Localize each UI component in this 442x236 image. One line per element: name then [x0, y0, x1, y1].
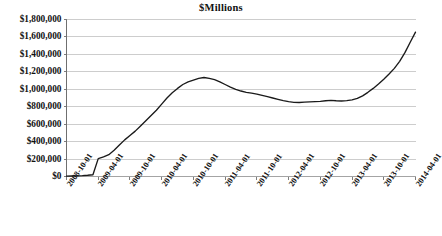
y-axis-tick-label: $400,000 [0, 136, 62, 146]
y-axis-tick-label: $200,000 [0, 154, 62, 164]
y-axis-tick-label: $1,000,000 [0, 84, 62, 94]
axis-lines [64, 20, 67, 177]
chart-plot-area [0, 0, 442, 236]
chart-container: $Millions $0$200,000$400,000$600,000$800… [0, 0, 442, 236]
y-axis-tick-label: $1,600,000 [0, 31, 62, 41]
y-axis-tick-label: $0 [0, 171, 62, 181]
y-axis-tick-label: $600,000 [0, 119, 62, 129]
y-axis-tick-label: $800,000 [0, 101, 62, 111]
y-axis-tick-label: $1,400,000 [0, 49, 62, 59]
y-axis-tick-label: $1,800,000 [0, 14, 62, 24]
y-axis-tick-label: $1,200,000 [0, 66, 62, 76]
